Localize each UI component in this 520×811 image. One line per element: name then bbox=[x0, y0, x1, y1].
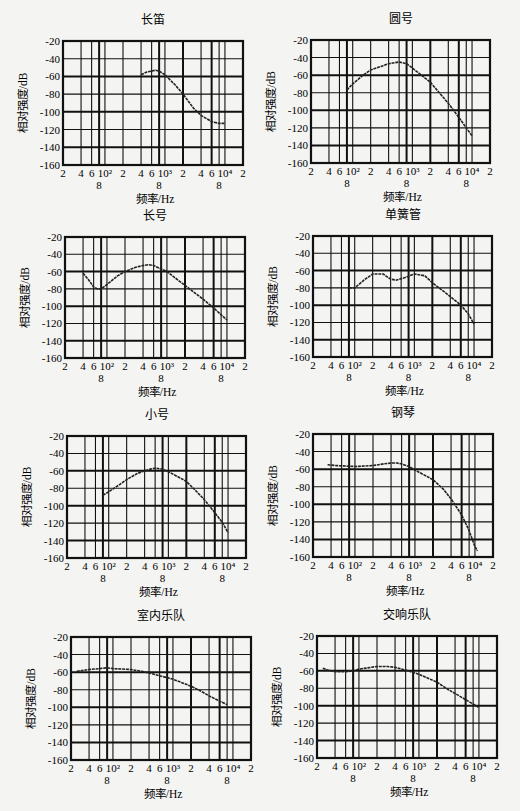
y-tick-label: -80 bbox=[299, 682, 314, 694]
x-tick-label: 2 bbox=[374, 760, 380, 772]
y-axis-label: 相对强度/dB bbox=[270, 666, 283, 727]
y-tick-label: -140 bbox=[294, 735, 315, 747]
x-tick-label: 10² bbox=[352, 760, 367, 772]
y-tick-label: -160 bbox=[294, 752, 315, 764]
x-tick-label: 2 bbox=[494, 760, 500, 772]
y-tick-label: -100 bbox=[294, 700, 315, 712]
x-tick-label: 2 bbox=[434, 760, 440, 772]
x-tick-label-8: 8 bbox=[350, 772, 356, 784]
chart-svg: 交响乐队-20-40-60-80-100-120-140-16024610²24… bbox=[0, 0, 520, 811]
x-tick-label-8: 8 bbox=[470, 772, 476, 784]
x-tick-label: 6 bbox=[343, 760, 349, 772]
x-tick-label: 2 bbox=[314, 760, 320, 772]
chart-title: 交响乐队 bbox=[383, 607, 431, 622]
x-axis-label: 频率/Hz bbox=[390, 785, 429, 798]
x-tick-label: 4 bbox=[392, 760, 398, 772]
y-tick-label: -120 bbox=[294, 717, 315, 729]
x-tick-label: 6 bbox=[403, 760, 409, 772]
x-tick-label: 4 bbox=[332, 760, 338, 772]
y-tick-label: -60 bbox=[299, 665, 314, 677]
y-tick-label: -40 bbox=[299, 647, 314, 659]
y-tick-label: -20 bbox=[299, 630, 314, 642]
x-tick-label: 4 bbox=[452, 760, 458, 772]
x-tick-label-8: 8 bbox=[410, 772, 416, 784]
x-tick-label: 10⁴ bbox=[472, 760, 487, 772]
x-tick-label: 6 bbox=[463, 760, 469, 772]
x-tick-label: 10³ bbox=[412, 760, 427, 772]
